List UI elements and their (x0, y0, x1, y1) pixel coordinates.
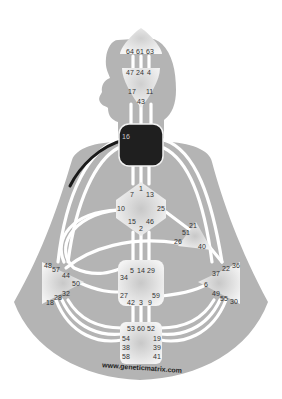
gate-4: 4 (147, 69, 151, 76)
gate-58: 58 (122, 353, 130, 360)
gate-48: 48 (44, 262, 52, 269)
gate-44: 44 (62, 272, 70, 279)
gate-25: 25 (157, 205, 165, 212)
gate-10: 10 (117, 205, 125, 212)
gate-9: 9 (148, 299, 152, 306)
gate-47: 47 (126, 69, 134, 76)
gate-30: 30 (230, 298, 238, 305)
gate-22: 22 (222, 265, 230, 272)
throat-center (119, 124, 163, 166)
gate-52: 52 (147, 325, 155, 332)
gate-40: 40 (198, 243, 206, 250)
gate-1: 1 (139, 185, 143, 192)
gate-46: 46 (146, 218, 154, 225)
gate-36: 36 (232, 262, 240, 269)
gate-61: 61 (136, 48, 144, 55)
bodygraph-chart: 64 61 63 47 24 4 17 11 43 16 1 7 13 10 2… (0, 0, 282, 399)
gate-63: 63 (146, 48, 154, 55)
gate-37: 37 (212, 270, 220, 277)
gate-50: 50 (72, 280, 80, 287)
gate-19: 19 (153, 335, 161, 342)
gate-49: 49 (212, 290, 220, 297)
gate-15: 15 (128, 218, 136, 225)
gate-5: 5 (130, 267, 134, 274)
gate-18: 18 (46, 299, 54, 306)
gate-7: 7 (130, 191, 134, 198)
gate-28: 28 (54, 294, 62, 301)
gate-16: 16 (122, 133, 130, 140)
gate-39: 39 (153, 344, 161, 351)
gate-54: 54 (122, 335, 130, 342)
gate-43: 43 (137, 98, 145, 105)
gate-60: 60 (137, 325, 145, 332)
gate-41: 41 (153, 353, 161, 360)
gate-13: 13 (146, 191, 154, 198)
gate-59: 59 (152, 292, 160, 299)
gate-2: 2 (139, 225, 143, 232)
gate-55: 55 (220, 295, 228, 302)
gate-17: 17 (128, 88, 136, 95)
gate-14: 14 (137, 267, 145, 274)
gate-24: 24 (136, 69, 144, 76)
gate-51: 51 (182, 229, 190, 236)
gate-29: 29 (147, 267, 155, 274)
gate-34: 34 (120, 274, 128, 281)
gate-3: 3 (139, 299, 143, 306)
gate-27: 27 (120, 292, 128, 299)
gate-11: 11 (146, 88, 153, 95)
gate-21: 21 (189, 222, 197, 229)
gate-64: 64 (126, 48, 134, 55)
gate-6: 6 (204, 281, 208, 288)
gate-32: 32 (62, 290, 70, 297)
gate-26: 26 (174, 238, 182, 245)
gate-42: 42 (127, 299, 135, 306)
gate-57: 57 (52, 266, 60, 273)
gate-53: 53 (127, 325, 135, 332)
gate-38: 38 (122, 344, 130, 351)
